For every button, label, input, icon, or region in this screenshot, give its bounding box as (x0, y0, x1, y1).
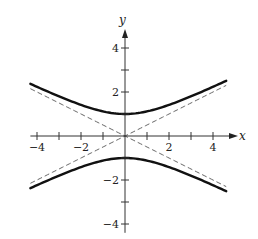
x-tick-label: −2 (73, 141, 89, 154)
x-tick-label: 2 (166, 141, 173, 154)
asymptote-line (30, 89, 226, 187)
y-tick-label: −4 (103, 218, 119, 231)
y-axis-arrow-icon (122, 29, 128, 38)
y-tick-label: 4 (112, 42, 119, 55)
y-axis-label: y (118, 13, 126, 27)
hyperbola-plot: −4−22442−2−4 x y (0, 0, 258, 239)
x-tick-label: 4 (210, 141, 217, 154)
x-axis-arrow-icon (229, 133, 238, 139)
y-tick-label: 2 (112, 86, 119, 99)
asymptote-line (30, 85, 226, 183)
x-tick-label: −4 (29, 141, 45, 154)
hyperbola-branch (30, 81, 226, 114)
x-axis-label: x (239, 129, 246, 143)
y-tick-label: −2 (103, 174, 119, 187)
hyperbola-branch (30, 158, 226, 191)
